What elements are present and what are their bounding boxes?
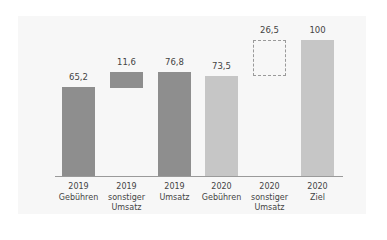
value-label: 11,6 xyxy=(102,57,152,67)
bar-2 xyxy=(110,72,143,88)
value-label: 76,8 xyxy=(150,57,200,67)
value-label: 73,5 xyxy=(197,61,247,71)
bar-3 xyxy=(158,72,191,176)
x-axis-baseline xyxy=(55,176,343,177)
bar-1 xyxy=(62,87,95,176)
bar-6 xyxy=(301,40,334,176)
value-label: 65,2 xyxy=(54,72,104,82)
value-label: 26,5 xyxy=(245,25,295,35)
category-label: 2020Ziel xyxy=(290,182,346,203)
bar-4 xyxy=(205,76,238,176)
bar-5 xyxy=(253,40,286,76)
value-label: 100 xyxy=(293,25,343,35)
